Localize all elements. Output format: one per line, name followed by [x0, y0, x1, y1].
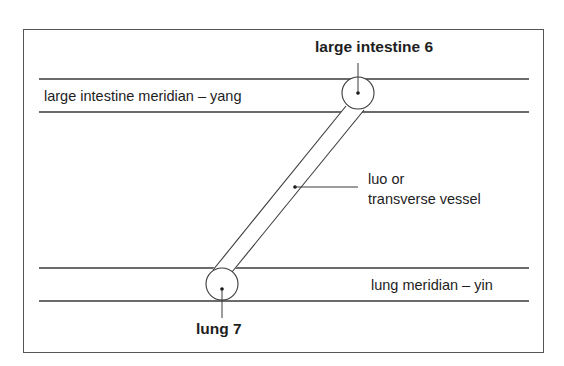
luo-label-line1: luo or: [368, 170, 404, 188]
meridian-diagram: [0, 0, 564, 366]
luo-label-line2: transverse vessel: [368, 190, 481, 208]
luo-vessel-right-edge: [232, 110, 364, 272]
yin-meridian-label: lung meridian – yin: [371, 276, 493, 294]
large-intestine-6-label: large intestine 6: [315, 38, 433, 56]
lung-7-label: lung 7: [196, 320, 242, 338]
yang-meridian-label: large intestine meridian – yang: [44, 87, 241, 105]
luo-vessel-left-edge: [213, 106, 346, 270]
